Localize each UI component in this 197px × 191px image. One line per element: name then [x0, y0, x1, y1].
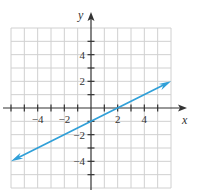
x-tick-label-neg4: −4 [32, 113, 44, 125]
coordinate-plane: y x −4 −2 2 4 4 2 −2 −4 [0, 0, 197, 191]
x-tick-label-neg2: −2 [58, 113, 70, 125]
x-tick-label-4: 4 [142, 113, 148, 125]
x-axis [3, 105, 181, 112]
y-axis-label: y [77, 8, 84, 22]
line-arrow-right-icon [159, 81, 171, 90]
y-tick-label-4: 4 [80, 49, 86, 61]
y-tick-label-neg2: −2 [73, 129, 85, 141]
x-tick-label-2: 2 [115, 113, 121, 125]
y-axis [88, 17, 95, 190]
y-tick-label-neg4: −4 [73, 155, 85, 167]
line-arrow-left-icon [11, 153, 23, 162]
x-axis-label: x [181, 113, 188, 127]
y-tick-label-2: 2 [80, 75, 86, 87]
